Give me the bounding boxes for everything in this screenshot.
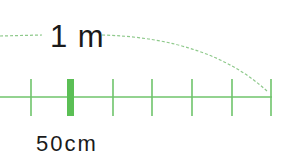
tick-label-50cm: 50cm xyxy=(36,131,98,157)
dashed-span-arc-left xyxy=(0,35,42,36)
dashed-span-arc-right xyxy=(102,35,268,92)
span-label-1m: 1 m xyxy=(50,19,105,55)
highlight-tick-50cm xyxy=(67,79,74,116)
ruler-diagram: 1 m 50cm xyxy=(0,0,301,166)
